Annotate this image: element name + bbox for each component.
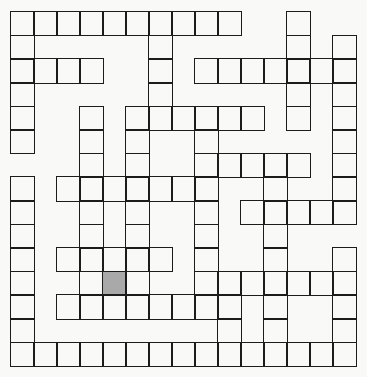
grid-cell[interactable] [148,176,173,201]
grid-cell[interactable] [286,106,311,131]
grid-cell[interactable] [125,342,150,367]
grid-cell[interactable] [125,129,150,154]
grid-cell[interactable] [79,129,104,154]
grid-cell[interactable] [56,11,81,36]
grid-cell[interactable] [194,342,219,367]
grid-cell[interactable] [148,106,173,131]
grid-cell[interactable] [217,106,242,131]
grid-cell[interactable] [79,200,104,225]
grid-cell[interactable] [171,342,196,367]
grid-cell[interactable] [171,11,196,36]
grid-cell[interactable] [10,318,35,343]
grid-cell[interactable] [286,342,311,367]
grid-cell[interactable] [125,247,150,272]
grid-cell[interactable] [56,58,81,83]
grid-cell[interactable] [263,224,288,249]
grid-cell[interactable] [332,294,357,319]
grid-cell[interactable] [102,247,127,272]
grid-cell[interactable] [263,342,288,367]
grid-cell[interactable] [286,200,311,225]
grid-cell[interactable] [79,106,104,131]
grid-cell[interactable] [263,200,288,225]
grid-cell[interactable] [332,35,357,60]
grid-cell[interactable] [148,82,173,107]
grid-cell[interactable] [217,153,242,178]
grid-cell[interactable] [263,153,288,178]
grid-cell[interactable] [332,200,357,225]
grid-cell[interactable] [240,200,265,225]
grid-cell[interactable] [263,58,288,83]
grid-cell[interactable] [79,11,104,36]
grid-cell[interactable] [125,200,150,225]
grid-cell[interactable] [148,294,173,319]
grid-cell[interactable] [171,294,196,319]
grid-cell[interactable] [217,11,242,36]
grid-cell[interactable] [309,342,334,367]
grid-cell[interactable] [194,271,219,296]
grid-cell[interactable] [125,294,150,319]
grid-cell[interactable] [148,342,173,367]
grid-cell[interactable] [332,342,357,367]
grid-cell[interactable] [309,58,334,83]
grid-cell[interactable] [56,294,81,319]
grid-cell[interactable] [10,58,35,83]
grid-cell[interactable] [332,106,357,131]
grid-cell[interactable] [240,342,265,367]
grid-cell[interactable] [125,11,150,36]
grid-cell[interactable] [194,11,219,36]
grid-cell[interactable] [79,58,104,83]
grid-cell[interactable] [332,271,357,296]
grid-cell[interactable] [263,247,288,272]
grid-cell[interactable] [332,58,357,83]
grid-cell[interactable] [286,11,311,36]
grid-cell[interactable] [125,271,150,296]
grid-cell[interactable] [240,58,265,83]
grid-cell[interactable] [10,247,35,272]
grid-cell[interactable] [79,224,104,249]
grid-cell[interactable] [194,200,219,225]
grid-cell[interactable] [125,176,150,201]
grid-cell[interactable] [102,294,127,319]
grid-cell[interactable] [79,176,104,201]
grid-cell[interactable] [263,318,288,343]
grid-cell[interactable] [10,106,35,131]
grid-cell[interactable] [286,153,311,178]
grid-cell[interactable] [286,82,311,107]
grid-cell[interactable] [10,200,35,225]
grid-cell[interactable] [194,58,219,83]
grid-cell[interactable] [56,342,81,367]
grid-cell[interactable] [217,58,242,83]
grid-cell[interactable] [263,271,288,296]
grid-cell[interactable] [309,200,334,225]
grid-cell[interactable] [309,271,334,296]
grid-cell[interactable] [332,176,357,201]
grid-cell[interactable] [79,342,104,367]
grid-cell[interactable] [125,153,150,178]
grid-cell[interactable] [194,224,219,249]
grid-cell[interactable] [286,271,311,296]
grid-cell[interactable] [148,247,173,272]
grid-cell[interactable] [286,35,311,60]
grid-cell[interactable] [332,247,357,272]
grid-cell[interactable] [10,35,35,60]
grid-cell[interactable] [217,318,242,343]
grid-cell[interactable] [332,318,357,343]
grid-cell[interactable] [332,129,357,154]
grid-cell[interactable] [33,58,58,83]
grid-cell[interactable] [217,271,242,296]
grid-cell[interactable] [148,35,173,60]
grid-cell[interactable] [240,271,265,296]
grid-cell[interactable] [194,294,219,319]
grid-cell[interactable] [33,11,58,36]
grid-cell[interactable] [102,342,127,367]
grid-cell[interactable] [79,153,104,178]
grid-cell[interactable] [263,294,288,319]
grid-cell[interactable] [171,176,196,201]
grid-cell[interactable] [332,82,357,107]
grid-cell[interactable] [332,153,357,178]
grid-cell[interactable] [240,106,265,131]
grid-cell[interactable] [10,224,35,249]
grid-cell[interactable] [171,106,196,131]
grid-cell[interactable] [125,106,150,131]
grid-cell[interactable] [263,176,288,201]
